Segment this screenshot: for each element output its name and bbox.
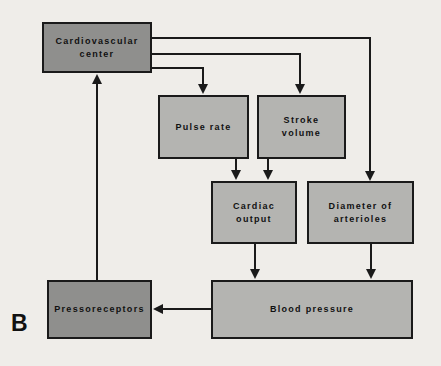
node-label: output <box>236 213 272 226</box>
node-cardiac-output: Cardiac output <box>211 181 297 244</box>
arrowhead-cv-to-diameter <box>365 171 375 181</box>
arrowhead-bp-to-presso <box>153 304 163 314</box>
node-label: Cardiac <box>233 200 275 213</box>
arrowhead-cv-to-pulse <box>198 84 208 94</box>
arrow-cv-to-pulse <box>152 68 203 86</box>
node-label: Diameter of <box>329 200 393 213</box>
flowchart-canvas: Cardiovascular center Pulse rate Stroke … <box>0 0 441 366</box>
node-pressoreceptors: Pressoreceptors <box>47 280 152 339</box>
node-diameter-of-arterioles: Diameter of arterioles <box>307 181 414 244</box>
arrowhead-cardiac-to-bp <box>250 269 260 279</box>
node-label: volume <box>282 127 321 140</box>
arrowhead-cv-to-stroke <box>295 84 305 94</box>
node-label: Pressoreceptors <box>54 303 145 316</box>
node-label: arterioles <box>334 213 388 226</box>
node-cardiovascular-center: Cardiovascular center <box>42 22 152 73</box>
node-label: center <box>80 48 115 61</box>
node-stroke-volume: Stroke volume <box>257 95 346 159</box>
node-label: Stroke <box>284 114 320 127</box>
arrowhead-diameter-to-bp <box>366 269 376 279</box>
node-blood-pressure: Blood pressure <box>211 280 413 339</box>
node-label: Pulse rate <box>175 121 231 134</box>
node-label: Cardiovascular <box>55 35 138 48</box>
arrowhead-pulse-to-cardiac <box>231 170 241 180</box>
arrow-cv-to-stroke <box>152 54 300 86</box>
arrowhead-stroke-to-cardiac <box>263 170 273 180</box>
arrowhead-presso-to-cv <box>92 74 102 84</box>
panel-label: B <box>11 310 28 337</box>
node-pulse-rate: Pulse rate <box>158 95 249 159</box>
node-label: Blood pressure <box>270 303 354 316</box>
